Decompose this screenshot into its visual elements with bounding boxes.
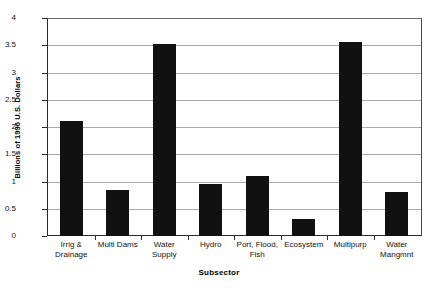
x-category-label-line: Multipurp	[327, 240, 374, 250]
y-tick-label: 0.5	[0, 205, 16, 213]
bar	[292, 219, 315, 236]
x-category-label-line: Multi Dams	[95, 240, 142, 250]
x-category-label-line: Drainage	[48, 250, 95, 260]
x-category-label-line: Fish	[234, 250, 281, 260]
bars-layer	[48, 18, 421, 236]
bar-chart: Billions of 1996 U.S. Dollars 00.511.522…	[0, 0, 438, 291]
bar	[385, 192, 408, 236]
x-category-label-line: Mangmnt	[374, 250, 421, 260]
bar	[246, 176, 269, 236]
y-tick-mark	[42, 236, 47, 237]
y-tick-label: 0	[0, 232, 16, 240]
x-category-label-line: Port, Flood,	[234, 240, 281, 250]
x-category-label: Multipurp	[327, 240, 374, 250]
bar	[153, 44, 176, 236]
x-category-label-line: Supply	[141, 250, 188, 260]
x-category-label-line: Irrig &	[48, 240, 95, 250]
bar	[60, 121, 83, 236]
x-category-label: WaterMangmnt	[374, 240, 421, 260]
y-tick-label: 3.5	[0, 41, 16, 49]
bar	[199, 184, 222, 236]
x-category-label-line: Ecosystem	[281, 240, 328, 250]
y-tick-label: 2	[0, 123, 16, 131]
y-tick-label: 3	[0, 69, 16, 77]
x-category-label: Ecosystem	[281, 240, 328, 250]
x-category-label: WaterSupply	[141, 240, 188, 260]
y-tick-label: 1	[0, 178, 16, 186]
bar	[106, 190, 129, 236]
x-category-label-line: Water	[374, 240, 421, 250]
y-tick-label: 1.5	[0, 150, 16, 158]
y-tick-label: 4	[0, 14, 16, 22]
y-tick-label: 2.5	[0, 96, 16, 104]
x-category-label-line: Water	[141, 240, 188, 250]
x-category-label-line: Hydro	[188, 240, 235, 250]
x-category-label: Hydro	[188, 240, 235, 250]
x-category-label: Port, Flood,Fish	[234, 240, 281, 260]
x-axis-title: Subsector	[0, 268, 438, 277]
x-category-label: Multi Dams	[95, 240, 142, 250]
bar	[339, 42, 362, 236]
x-category-label: Irrig &Drainage	[48, 240, 95, 260]
